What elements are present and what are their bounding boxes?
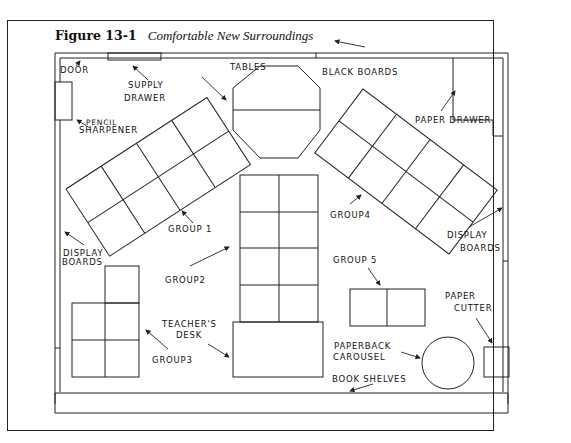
display-boards-right-label-1: DISPLAY xyxy=(447,230,487,240)
teachers-desk-label-1: TEACHER'S xyxy=(161,319,217,329)
pencil-sharpener-label-2: SHARPENER xyxy=(79,125,138,135)
tables-octagon xyxy=(233,66,320,158)
supply-drawer xyxy=(108,53,161,60)
group-3-label: GROUP3 xyxy=(152,355,193,365)
group-2-label: GROUP2 xyxy=(165,275,206,285)
book-shelves-label: BOOK SHELVES xyxy=(332,374,406,384)
paper-cutter-label-2: CUTTER xyxy=(454,303,492,313)
book-shelves xyxy=(55,393,508,413)
group-1-label: GROUP 1 xyxy=(168,224,212,234)
door-label: DOOR xyxy=(60,65,89,75)
group-4-label: GROUP4 xyxy=(330,210,371,220)
teachers-desk xyxy=(233,322,323,377)
display-boards-right-label-2: BOARDS xyxy=(460,243,501,253)
paperback-carousel xyxy=(422,337,474,389)
pencil-sharpener xyxy=(55,82,72,120)
paperback-carousel-label-2: CAROUSEL xyxy=(333,352,385,362)
paper-cutter-label-1: PAPER xyxy=(445,291,476,301)
tables-label: TABLES xyxy=(229,62,266,72)
paper-cutter xyxy=(484,347,509,377)
supply-drawer-label-2: DRAWER xyxy=(124,93,166,103)
supply-drawer-label-1: SUPPLY xyxy=(128,80,163,90)
group-3-desks xyxy=(72,266,139,377)
room-walls xyxy=(55,53,508,404)
group-5-label: GROUP 5 xyxy=(333,255,377,265)
teachers-desk-label-2: DESK xyxy=(176,330,202,340)
paperback-carousel-label-1: PAPERBACK xyxy=(334,341,391,351)
display-boards-left-label-2: BOARDS xyxy=(62,257,103,267)
black-boards-label: BLACK BOARDS xyxy=(322,67,398,77)
group-5-desks xyxy=(350,289,425,326)
group-2-desks xyxy=(240,175,318,322)
paper-drawer-label: PAPER DRAWER xyxy=(415,115,491,125)
classroom-floor-plan: DOOR SUPPLY DRAWER TABLES BLACK BOARDS P… xyxy=(0,0,571,443)
